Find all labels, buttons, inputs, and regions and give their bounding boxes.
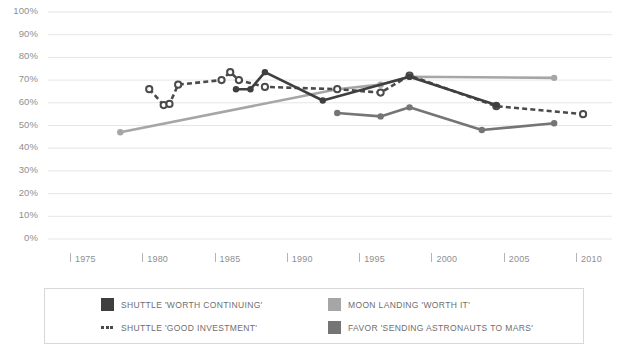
data-point-marker bbox=[262, 69, 268, 75]
data-point-marker bbox=[320, 97, 326, 103]
data-point-marker bbox=[551, 75, 557, 81]
data-point-marker bbox=[146, 86, 152, 92]
y-axis-tick-label: 20% bbox=[4, 187, 38, 198]
data-point-marker bbox=[236, 77, 242, 83]
x-axis-tick-label: 2005 bbox=[509, 254, 530, 264]
x-axis-tick-mark bbox=[287, 253, 288, 262]
y-axis-tick-label: 0% bbox=[4, 232, 38, 243]
data-point-marker bbox=[479, 127, 485, 133]
series-line bbox=[120, 77, 554, 133]
data-point-marker bbox=[117, 129, 123, 135]
legend-label: SHUTTLE 'GOOD INVESTMENT' bbox=[121, 323, 257, 333]
y-axis-tick-label: 10% bbox=[4, 209, 38, 220]
data-point-marker bbox=[551, 120, 557, 126]
x-axis-tick-label: 2010 bbox=[581, 254, 602, 264]
legend-item[interactable]: MOON LANDING 'WORTH IT' bbox=[314, 298, 583, 311]
data-point-marker bbox=[262, 84, 268, 90]
x-axis-tick-mark bbox=[215, 253, 216, 262]
data-point-marker bbox=[406, 73, 412, 79]
legend-color-swatch-icon bbox=[101, 298, 114, 311]
data-point-marker bbox=[377, 113, 383, 119]
y-axis-tick-label: 40% bbox=[4, 141, 38, 152]
y-axis-tick-label: 100% bbox=[4, 5, 38, 16]
x-axis-tick-mark bbox=[142, 253, 143, 262]
y-axis-tick-label: 80% bbox=[4, 50, 38, 61]
x-axis-tick-label: 1975 bbox=[75, 254, 96, 264]
x-axis-tick-mark bbox=[431, 253, 432, 262]
legend-label: MOON LANDING 'WORTH IT' bbox=[348, 300, 470, 310]
legend-grid: SHUTTLE 'WORTH CONTINUING'MOON LANDING '… bbox=[45, 289, 583, 343]
data-point-marker bbox=[334, 86, 340, 92]
chart-legend: SHUTTLE 'WORTH CONTINUING'MOON LANDING '… bbox=[44, 288, 584, 344]
y-axis-tick-label: 70% bbox=[4, 73, 38, 84]
chart-root: 100%90%80%70%60%50%40%30%20%10%0% 197519… bbox=[0, 0, 629, 357]
y-axis-tick-label: 50% bbox=[4, 119, 38, 130]
data-point-marker bbox=[334, 110, 340, 116]
y-axis-tick-label: 60% bbox=[4, 96, 38, 107]
data-point-marker bbox=[175, 82, 181, 88]
legend-item[interactable]: FAVOR 'SENDING ASTRONAUTS TO MARS' bbox=[314, 321, 583, 334]
legend-label: SHUTTLE 'WORTH CONTINUING' bbox=[121, 300, 263, 310]
x-axis-tick-label: 2000 bbox=[436, 254, 457, 264]
x-axis-tick-mark bbox=[359, 253, 360, 262]
y-axis-tick-label: 30% bbox=[4, 164, 38, 175]
legend-label: FAVOR 'SENDING ASTRONAUTS TO MARS' bbox=[348, 323, 533, 333]
legend-item[interactable]: SHUTTLE 'WORTH CONTINUING' bbox=[45, 298, 314, 311]
x-axis-tick-label: 1995 bbox=[364, 254, 385, 264]
data-point-marker bbox=[166, 101, 172, 107]
legend-dashed-swatch-icon bbox=[101, 321, 114, 334]
data-point-marker bbox=[233, 86, 239, 92]
y-axis-tick-label: 90% bbox=[4, 28, 38, 39]
series-line bbox=[337, 107, 554, 130]
data-point-marker bbox=[247, 86, 253, 92]
x-axis-tick-mark bbox=[70, 253, 71, 262]
data-point-marker bbox=[493, 102, 499, 108]
x-axis-tick-label: 1985 bbox=[220, 254, 241, 264]
legend-item[interactable]: SHUTTLE 'GOOD INVESTMENT' bbox=[45, 321, 314, 334]
legend-color-swatch-icon bbox=[328, 298, 341, 311]
x-axis-tick-label: 1980 bbox=[147, 254, 168, 264]
data-point-marker bbox=[580, 111, 586, 117]
x-axis-tick-mark bbox=[576, 253, 577, 262]
data-point-marker bbox=[406, 104, 412, 110]
x-axis-tick-mark bbox=[504, 253, 505, 262]
data-point-marker bbox=[227, 69, 233, 75]
x-axis-tick-label: 1990 bbox=[292, 254, 313, 264]
data-point-marker bbox=[378, 89, 384, 95]
legend-color-swatch-icon bbox=[328, 321, 341, 334]
data-point-marker bbox=[218, 77, 224, 83]
